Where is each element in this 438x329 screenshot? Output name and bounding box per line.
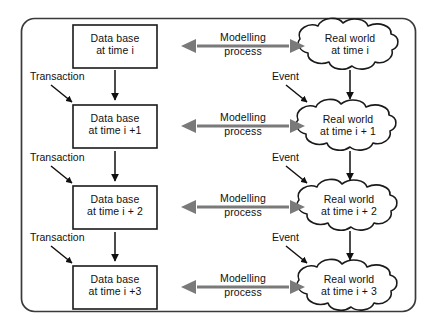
db-box-3-line2: at time i +3 — [73, 286, 157, 298]
modelling-arrow-1-label: Modelling process — [196, 112, 290, 138]
modelling-arrow-0-line2: process — [196, 46, 290, 58]
diagram-canvas: Data base at time i Data base at time i … — [0, 0, 438, 329]
cloud-0-line2: at time i — [306, 45, 394, 57]
modelling-arrow-1-line2: process — [196, 126, 290, 138]
event-label-1: Event — [272, 71, 299, 83]
modelling-arrow-2-label: Modelling process — [196, 193, 290, 219]
db-box-1-line1: Data base — [73, 113, 157, 125]
transaction-label-3: Transaction — [30, 232, 84, 244]
event-arrow-2 — [286, 166, 307, 183]
cloud-1-line1: Real world — [304, 114, 392, 126]
modelling-arrow-0-label: Modelling process — [196, 32, 290, 58]
cloud-2-line1: Real world — [305, 194, 393, 206]
db-box-1-line2: at time i +1 — [73, 125, 157, 137]
modelling-arrow-2-line2: process — [196, 207, 290, 219]
db-box-1-label: Data base at time i +1 — [73, 113, 157, 137]
db-box-3-line1: Data base — [73, 274, 157, 286]
transaction-arrow-1 — [51, 85, 72, 102]
cloud-0-label: Real world at time i — [306, 33, 394, 57]
db-box-3-label: Data base at time i +3 — [73, 274, 157, 298]
cloud-1-label: Real world at time i + 1 — [304, 114, 392, 138]
modelling-arrow-2-line1: Modelling — [196, 193, 290, 205]
modelling-arrow-3-line2: process — [196, 287, 290, 299]
transaction-arrow-3 — [51, 246, 72, 263]
transaction-arrow-2 — [51, 166, 72, 183]
db-box-0-line1: Data base — [73, 33, 157, 45]
modelling-arrow-0-line1: Modelling — [196, 32, 290, 44]
db-box-2-label: Data base at time i + 2 — [73, 194, 157, 218]
cloud-3-line1: Real world — [305, 274, 393, 286]
db-box-0-line2: at time i — [73, 45, 157, 57]
modelling-arrow-1-line1: Modelling — [196, 112, 290, 124]
event-arrow-3 — [286, 246, 307, 263]
cloud-1-line2: at time i + 1 — [304, 126, 392, 138]
modelling-arrow-3-line1: Modelling — [196, 273, 290, 285]
modelling-arrow-3-label: Modelling process — [196, 273, 290, 299]
transaction-label-2: Transaction — [30, 152, 84, 164]
event-arrow-1 — [286, 85, 307, 102]
db-box-0-label: Data base at time i — [73, 33, 157, 57]
db-box-2-line1: Data base — [73, 194, 157, 206]
event-label-2: Event — [272, 152, 299, 164]
cloud-0-line1: Real world — [306, 33, 394, 45]
db-box-2-line2: at time i + 2 — [73, 206, 157, 218]
cloud-3-label: Real world at time i + 3 — [305, 274, 393, 298]
cloud-3-line2: at time i + 3 — [305, 286, 393, 298]
event-label-3: Event — [272, 232, 299, 244]
transaction-label-1: Transaction — [30, 71, 84, 83]
cloud-2-line2: at time i + 2 — [305, 206, 393, 218]
cloud-2-label: Real world at time i + 2 — [305, 194, 393, 218]
